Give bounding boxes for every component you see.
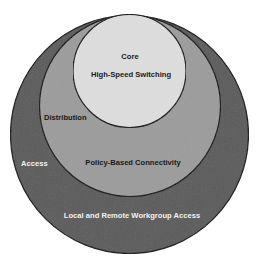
distribution-layer-title: Distribution xyxy=(44,113,87,122)
distribution-layer-description: Policy-Based Connectivity xyxy=(85,158,181,167)
access-layer-title: Access xyxy=(21,159,48,168)
hierarchical-network-diagram: Core High-Speed Switching Distribution P… xyxy=(0,0,259,261)
core-layer-title: Core xyxy=(121,52,138,61)
core-layer-description: High-Speed Switching xyxy=(91,70,172,79)
access-layer-description: Local and Remote Workgroup Access xyxy=(64,211,200,220)
